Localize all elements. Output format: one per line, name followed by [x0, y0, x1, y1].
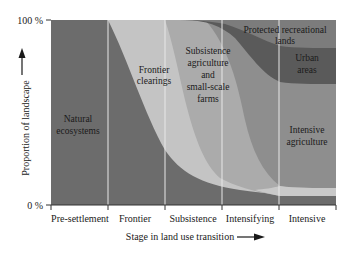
- y-arrow-head-icon: [19, 48, 26, 58]
- label-urban-2: areas: [297, 65, 317, 75]
- label-protected-2: lands: [275, 36, 295, 46]
- label-subsistence-3: and: [201, 70, 215, 80]
- y-axis-label: Proportion of landscape: [20, 80, 31, 176]
- stage-label-intensifying: Intensifying: [226, 213, 274, 224]
- label-subsistence-5: farms: [197, 94, 219, 104]
- y-tick-0: 0 %: [27, 200, 43, 211]
- label-urban-1: Urban: [295, 53, 319, 63]
- x-arrow-head-icon: [254, 234, 265, 241]
- y-tick-100: 100 %: [17, 15, 43, 26]
- stage-label-intensive: Intensive: [289, 213, 326, 224]
- label-natural-1: Natural: [64, 114, 93, 124]
- stage-label-frontier: Frontier: [119, 213, 152, 224]
- label-subsistence-2: agriculture: [187, 58, 228, 68]
- label-frontier-2: clearings: [137, 76, 172, 86]
- y-axis-title: Proportion of landscape: [20, 80, 31, 176]
- label-intensive-1: Intensive: [290, 125, 325, 135]
- land-use-transition-diagram: 100 % 0 % Proportion of landscape Pre-se…: [0, 0, 353, 256]
- label-protected-1: Protected recreational: [243, 25, 326, 35]
- label-natural-2: ecosystems: [56, 126, 100, 136]
- stage-label-pre-settlement: Pre-settlement: [51, 213, 109, 224]
- x-axis-label: Stage in land use transition: [126, 231, 234, 242]
- label-subsistence-1: Subsistence: [186, 46, 231, 56]
- label-frontier-1: Frontier: [139, 65, 170, 75]
- label-intensive-2: agriculture: [286, 137, 327, 147]
- label-subsistence-4: small-scale: [187, 82, 230, 92]
- stage-label-subsistence: Subsistence: [169, 213, 217, 224]
